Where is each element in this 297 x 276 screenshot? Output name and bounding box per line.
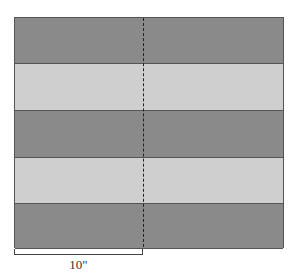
stripe-3-dark — [15, 111, 283, 158]
stripe-2-light — [15, 64, 283, 111]
dimension-label: 10" — [14, 257, 143, 273]
stripe-1-dark — [15, 18, 283, 64]
center-dashed-line — [143, 18, 144, 247]
stripe-4-light — [15, 158, 283, 204]
stripe-5-dark — [15, 204, 283, 249]
dimension-bracket — [14, 249, 143, 255]
striped-panel — [14, 17, 284, 248]
